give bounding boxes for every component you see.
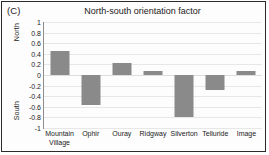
bar-slot [231,22,262,128]
x-axis-tick-label: Image [223,130,269,139]
y-axis-direction-south: South [13,101,20,120]
bar[interactable] [206,75,225,90]
x-axis-labels: Mountain VillageOphirOurayRidgwaySilvert… [44,130,262,154]
bar-slot [200,22,231,128]
chart-title: North-south orientation factor [2,6,265,16]
bar-slot [106,22,137,128]
bar-slot [169,22,200,128]
bar[interactable] [175,75,194,117]
bar-slot [75,22,106,128]
bar-series [44,22,262,128]
y-axis-tick-label: 0.8 [31,29,41,36]
bar[interactable] [237,71,256,75]
bar-slot [44,22,75,128]
y-axis-tick-label: 0 [37,72,41,79]
y-axis-tick-label: -0.2 [29,82,41,89]
y-axis-tick-label: -0.8 [29,114,41,121]
y-axis-tick-label: 0.4 [31,50,41,57]
bar[interactable] [112,63,131,75]
y-axis-tick-label: -0.4 [29,93,41,100]
chart-panel: (C) North-south orientation factor North… [1,1,266,152]
y-axis-tick-label: 1 [37,19,41,26]
y-axis-direction-north: North [13,23,20,41]
bar[interactable] [50,51,69,75]
y-axis-tick-label: 0.2 [31,61,41,68]
plot-area: 10.80.60.40.20-0.2-0.4-0.6-0.8-1 [44,22,262,128]
bar[interactable] [143,71,162,75]
bar-slot [137,22,168,128]
bar[interactable] [81,75,100,105]
y-axis-tick-label: -0.6 [29,103,41,110]
y-axis-tick-label: 0.6 [31,40,41,47]
gridline: -1 [44,128,262,129]
